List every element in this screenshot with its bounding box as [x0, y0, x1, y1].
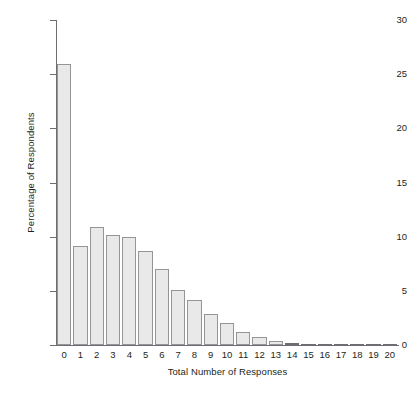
bar — [171, 290, 185, 345]
bar — [90, 227, 104, 345]
bar — [138, 251, 152, 345]
bar — [285, 343, 299, 345]
x-tick-label: 10 — [219, 349, 235, 360]
x-tick-label: 20 — [382, 349, 398, 360]
plot-area — [56, 20, 398, 345]
y-tick-mark — [50, 345, 56, 346]
x-tick-label: 15 — [300, 349, 316, 360]
bar — [73, 246, 87, 345]
bar — [220, 323, 234, 345]
x-tick-label: 2 — [89, 349, 105, 360]
x-tick-label: 17 — [333, 349, 349, 360]
x-tick-label: 6 — [154, 349, 170, 360]
bar — [318, 344, 332, 345]
x-tick-label: 18 — [349, 349, 365, 360]
bar — [236, 332, 250, 345]
bar — [204, 314, 218, 345]
x-tick-label: 19 — [365, 349, 381, 360]
x-tick-label: 12 — [251, 349, 267, 360]
bar — [155, 269, 169, 345]
bar — [269, 341, 283, 345]
x-tick-label: 16 — [317, 349, 333, 360]
x-tick-label: 9 — [203, 349, 219, 360]
x-tick-label: 14 — [284, 349, 300, 360]
bar — [122, 237, 136, 345]
x-tick-label: 13 — [268, 349, 284, 360]
bar — [57, 64, 71, 345]
bar — [187, 300, 201, 346]
bar-chart-figure: Percentage of Respondents 051015202530 0… — [0, 0, 407, 393]
bar — [252, 337, 266, 345]
bar — [106, 235, 120, 346]
bar — [366, 344, 380, 345]
bar — [301, 344, 315, 345]
bar — [383, 344, 397, 345]
x-tick-label: 4 — [121, 349, 137, 360]
x-tick-label: 1 — [72, 349, 88, 360]
x-axis-title: Total Number of Responses — [56, 366, 399, 377]
x-tick-label: 8 — [186, 349, 202, 360]
y-axis-title: Percentage of Respondents — [22, 0, 40, 345]
x-tick-label: 0 — [56, 349, 72, 360]
x-tick-label: 7 — [170, 349, 186, 360]
bar — [334, 344, 348, 345]
bar — [350, 344, 364, 345]
x-tick-label: 5 — [137, 349, 153, 360]
x-axis-line — [56, 345, 399, 346]
x-tick-label: 11 — [235, 349, 251, 360]
x-tick-label: 3 — [105, 349, 121, 360]
